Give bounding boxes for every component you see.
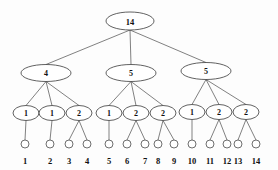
leaf-label-layer: 1234567891011121314 [23,156,261,166]
node-label-L3-0: 1 [24,109,28,118]
edge-level3-to-leaf [50,121,52,141]
level3-node-L3-2: 2 [66,106,92,121]
edge-level3-to-leaf [219,120,227,141]
level3-node-L3-1: 1 [39,106,65,121]
level2-node-L2-0: 4 [21,65,71,82]
edge-level2-to-level3 [109,82,131,106]
node-label-L2-0: 4 [44,69,48,78]
level3-node-L3-5: 2 [150,106,176,121]
leaf-label-leaf-8: 8 [156,156,160,166]
edge-level3-to-leaf [210,120,219,141]
edge-root-to-level2 [130,30,131,65]
leaf-label-leaf-14: 14 [252,156,261,166]
edge-level2-to-level3 [131,82,163,106]
leaf-label-leaf-13: 13 [234,156,243,166]
level3-node-L3-8: 2 [233,105,259,120]
node-label-L2-2: 5 [204,67,208,76]
node-label-L3-2: 2 [77,109,81,118]
leaf-label-leaf-5: 5 [107,156,111,166]
node-label-L3-5: 2 [161,109,165,118]
edge-level3-to-leaf [163,121,174,141]
edge-level2-to-level3 [206,80,246,105]
level3-node-L3-0: 1 [13,106,39,121]
edge-level3-to-leaf [69,121,79,141]
leaf-label-leaf-4: 4 [85,156,90,166]
leaf-circle-leaf-3 [65,140,73,148]
leaf-label-leaf-11: 11 [206,156,214,166]
edge-level3-to-leaf [246,120,256,141]
leaf-circle-leaf-1 [21,140,29,148]
leaf-label-leaf-6: 6 [125,156,129,166]
node-label-L3-8: 2 [244,108,248,117]
leaf-circle-leaf-14 [252,140,260,148]
edge-level3-to-leaf [238,120,246,141]
node-label-L3-3: 1 [107,109,111,118]
edge-layer [25,30,256,140]
edge-level3-to-leaf [158,121,163,141]
edge-root-to-level2 [130,30,206,63]
level3-node-L3-3: 1 [96,106,122,121]
level3-node-L3-4: 2 [123,106,149,121]
leaf-circle-leaf-12 [223,140,231,148]
node-label-L3-4: 2 [134,109,138,118]
level3-node-L3-6: 1 [179,105,205,120]
leaf-circle-leaf-9 [170,140,178,148]
level2-node-L2-1: 5 [106,65,156,82]
leaf-label-leaf-9: 9 [172,156,176,166]
edge-level3-to-leaf [127,121,136,141]
leaf-circle-leaf-8 [154,140,162,148]
leaf-circle-leaf-6 [123,140,131,148]
edge-level3-to-leaf [136,121,145,141]
level2-node-L2-2: 5 [181,63,231,80]
node-label-L2-1: 5 [129,69,133,78]
leaf-circle-leaf-4 [83,140,91,148]
leaf-label-leaf-2: 2 [48,156,52,166]
leaf-circle-leaf-13 [234,140,242,148]
node-label-L3-6: 1 [190,108,194,117]
edge-root-to-level2 [46,30,130,65]
edge-level3-to-leaf [25,121,26,141]
leaf-label-leaf-3: 3 [67,156,71,166]
leaf-circle-leaf-7 [141,140,149,148]
leaf-circle-leaf-2 [46,140,54,148]
edge-level2-to-level3 [192,80,206,105]
leaf-label-leaf-12: 12 [223,156,232,166]
leaf-label-leaf-10: 10 [188,156,197,166]
level3-node-L3-7: 2 [206,105,232,120]
leaf-layer [21,140,260,148]
tree-diagram: 14455112122122 1234567891011121314 [0,0,278,170]
leaf-label-leaf-7: 7 [143,156,148,166]
node-label-L3-7: 2 [217,108,221,117]
node-label-root: 14 [126,17,135,27]
leaf-circle-leaf-11 [206,140,214,148]
edge-level2-to-level3 [26,82,46,106]
leaf-label-leaf-1: 1 [23,156,27,166]
tree-canvas: 14455112122122 1234567891011121314 [0,0,278,170]
root-node-root: 14 [106,12,154,30]
leaf-circle-leaf-10 [188,140,196,148]
leaf-circle-leaf-5 [105,140,113,148]
edge-level3-to-leaf [79,121,87,141]
node-label-L3-1: 1 [50,109,54,118]
